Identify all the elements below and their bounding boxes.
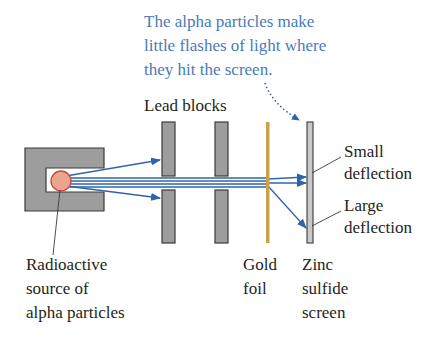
label-source-1: Radioactive xyxy=(26,255,107,274)
label-screen-1: Zinc xyxy=(302,255,333,274)
label-gold-foil-2: foil xyxy=(243,279,267,298)
label-source-2: source of xyxy=(26,279,89,298)
zinc-sulfide-screen xyxy=(307,122,313,243)
label-gold-foil-1: Gold xyxy=(243,255,277,274)
label-large-deflection-2: deflection xyxy=(344,218,412,237)
label-source-3: alpha particles xyxy=(26,303,125,322)
label-large-deflection-1: Large xyxy=(344,196,383,215)
label-screen-2: sulfide xyxy=(302,279,348,298)
lead-blocks xyxy=(162,122,228,243)
gold-foil xyxy=(266,122,270,243)
label-screen-3: screen xyxy=(302,303,345,322)
label-small-deflection-1: Small xyxy=(344,142,384,161)
radioactive-source-circle xyxy=(51,171,71,191)
callout-dotted-arrow xyxy=(265,83,299,120)
label-small-deflection-2: deflection xyxy=(344,164,412,183)
